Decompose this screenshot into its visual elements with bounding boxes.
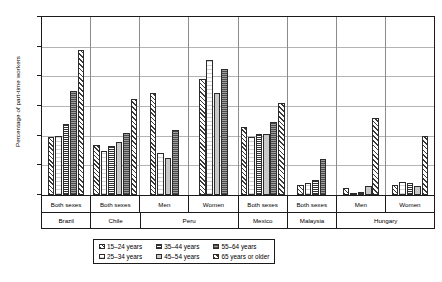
bar <box>263 134 270 195</box>
bar <box>116 142 123 195</box>
bar <box>392 185 399 195</box>
legend-label: 55–64 years <box>221 243 256 250</box>
legend-swatch <box>213 244 219 250</box>
bar-group <box>238 17 287 195</box>
legend-item: 55–64 years <box>213 243 269 250</box>
legend-label: 15–24 years <box>107 243 142 250</box>
chart-legend: 15–24 years35–44 years55–64 years25–34 y… <box>93 239 275 264</box>
bar <box>48 137 55 195</box>
bar <box>305 183 312 195</box>
legend-label: 65 years or older <box>221 253 269 260</box>
legend-label: 35–44 years <box>164 243 199 250</box>
bar-group <box>385 17 434 195</box>
bar <box>150 93 157 195</box>
bar <box>320 159 327 195</box>
bar <box>350 193 357 195</box>
legend-item: 15–24 years <box>99 243 142 250</box>
bar <box>157 153 164 195</box>
bar <box>123 133 130 195</box>
bar-group <box>287 17 336 195</box>
bar <box>199 79 206 195</box>
category-label: Women <box>188 196 237 212</box>
bar <box>270 122 277 195</box>
bar <box>372 118 379 195</box>
legend-item: 35–44 years <box>156 243 199 250</box>
legend-item: 65 years or older <box>213 253 269 260</box>
bar <box>214 93 221 195</box>
country-label: Hungary <box>336 213 434 228</box>
bar <box>248 137 255 195</box>
bar-group <box>139 17 188 195</box>
bar-chart: Percentage of part-time workers 60.050.0… <box>0 0 442 282</box>
bar <box>70 91 77 195</box>
country-label: Peru <box>140 213 238 228</box>
category-label: Both sexes <box>287 196 336 212</box>
bar-groups <box>42 17 434 195</box>
country-label: Malaysia <box>287 213 336 228</box>
category-label: Both sexes <box>90 196 139 212</box>
category-label: Women <box>385 196 434 212</box>
bar <box>165 158 172 195</box>
bar <box>256 134 263 195</box>
bar-group <box>188 17 237 195</box>
bar <box>63 124 70 195</box>
legend-swatch <box>99 244 105 250</box>
bar <box>172 130 179 195</box>
category-axis-row: Both sexesBoth sexesMenWomenBoth sexesBo… <box>41 196 435 213</box>
bar <box>278 103 285 195</box>
bar <box>297 185 304 195</box>
bar <box>93 145 100 195</box>
bar <box>241 127 248 195</box>
bar <box>101 151 108 196</box>
bar-group <box>336 17 385 195</box>
category-label: Both sexes <box>238 196 287 212</box>
bar <box>422 136 429 195</box>
category-label: Men <box>139 196 188 212</box>
bar <box>221 69 228 195</box>
country-axis-row: BrazilChilePeruMexicoMalaysiaHungary <box>41 213 435 229</box>
bar <box>108 146 115 195</box>
country-label: Mexico <box>238 213 287 228</box>
bar <box>343 188 350 195</box>
category-label: Both sexes <box>42 196 90 212</box>
y-axis-title: Percentage of part-time workers <box>14 27 21 177</box>
bar <box>407 183 414 195</box>
bar <box>312 180 319 195</box>
legend-swatch <box>156 244 162 250</box>
bar <box>131 99 138 195</box>
country-label: Brazil <box>42 213 90 228</box>
legend-item: 25–34 years <box>99 253 142 260</box>
bar <box>78 50 85 195</box>
legend-swatch <box>213 254 219 260</box>
legend-label: 25–34 years <box>107 253 142 260</box>
legend-label: 45–54 years <box>164 253 199 260</box>
bar <box>358 192 365 195</box>
bar <box>55 136 62 195</box>
bar <box>414 186 421 195</box>
legend-swatch <box>99 254 105 260</box>
category-label: Men <box>336 196 385 212</box>
bar <box>206 60 213 195</box>
legend-swatch <box>156 254 162 260</box>
bar-group <box>42 17 90 195</box>
plot-area <box>41 16 435 196</box>
legend-item: 45–54 years <box>156 253 199 260</box>
bar <box>399 182 406 195</box>
bar <box>365 186 372 195</box>
country-label: Chile <box>90 213 139 228</box>
bar-group <box>90 17 139 195</box>
